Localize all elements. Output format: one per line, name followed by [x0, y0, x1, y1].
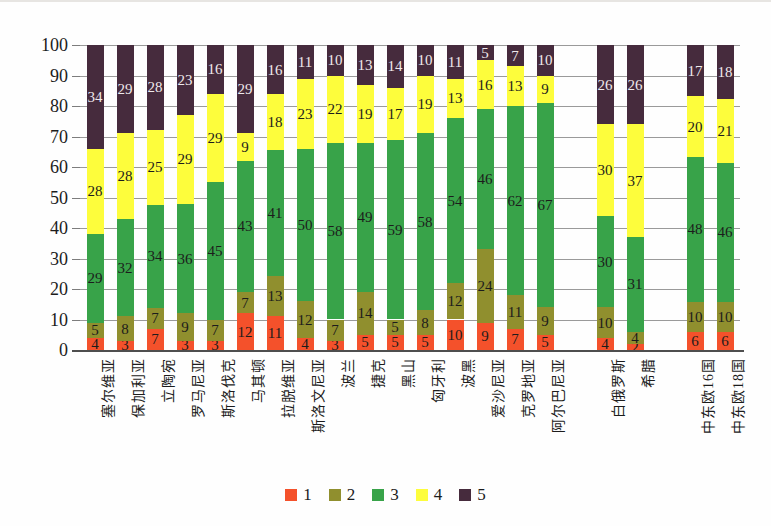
x-axis-line [72, 350, 744, 352]
segment-value-label: 9 [181, 320, 189, 335]
legend-swatch [329, 489, 341, 501]
segment-value-label: 13 [268, 289, 283, 304]
legend-item: 2 [329, 486, 356, 503]
segment-value-label: 48 [688, 222, 703, 237]
segment-value-label: 13 [358, 57, 373, 72]
segment-value-label: 7 [151, 311, 159, 326]
segment-value-label: 26 [598, 77, 613, 92]
segment-value-label: 30 [598, 163, 613, 178]
segment-value-label: 10 [448, 327, 463, 342]
legend-label: 5 [477, 486, 486, 503]
segment-value-label: 54 [448, 193, 463, 208]
category-label: 克罗地亚 [522, 358, 536, 418]
segment-value-label: 8 [121, 321, 129, 336]
segment-value-label: 29 [88, 271, 103, 286]
legend-swatch [285, 489, 297, 501]
segment-value-label: 13 [448, 91, 463, 106]
category-label: 立陶宛 [162, 358, 176, 403]
segment-value-label: 62 [508, 193, 523, 208]
category-label: 斯洛文尼亚 [312, 358, 326, 433]
segment-value-label: 5 [391, 335, 399, 350]
segment-value-label: 25 [148, 160, 163, 175]
y-axis-tick-label: 90 [20, 67, 68, 85]
segment-value-label: 5 [391, 320, 399, 335]
segment-value-label: 9 [481, 329, 489, 344]
segment-value-label: 11 [508, 304, 522, 319]
segment-value-label: 7 [331, 323, 339, 338]
segment-value-label: 4 [631, 330, 639, 345]
category-label: 中东欧16国 [702, 358, 716, 434]
segment-value-label: 9 [541, 82, 549, 97]
segment-value-label: 49 [358, 210, 373, 225]
segment-value-label: 16 [268, 62, 283, 77]
segment-value-label: 6 [691, 333, 699, 348]
category-label: 拉脱维亚 [282, 358, 296, 418]
segment-value-label: 59 [388, 222, 403, 237]
segment-value-label: 17 [388, 106, 403, 121]
segment-value-label: 14 [388, 59, 403, 74]
segment-value-label: 5 [91, 323, 99, 338]
y-axis-tick [72, 45, 80, 46]
y-axis-tick [72, 228, 80, 229]
segment-value-label: 12 [238, 324, 253, 339]
segment-value-label: 10 [328, 53, 343, 68]
segment-value-label: 9 [541, 314, 549, 329]
y-axis-tick-label: 60 [20, 158, 68, 176]
segment-value-label: 10 [718, 309, 733, 324]
segment-value-label: 28 [88, 184, 103, 199]
segment-value-label: 23 [298, 106, 313, 121]
segment-value-label: 10 [688, 309, 703, 324]
y-axis-tick-label: 50 [20, 189, 68, 207]
category-label: 马其顿 [252, 358, 266, 403]
legend-item: 1 [285, 486, 312, 503]
segment-value-label: 50 [298, 217, 313, 232]
segment-value-label: 10 [598, 315, 613, 330]
segment-value-label: 28 [118, 169, 133, 184]
category-label: 罗马尼亚 [192, 358, 206, 418]
segment-value-label: 8 [421, 315, 429, 330]
segment-value-label: 5 [421, 335, 429, 350]
segment-value-label: 43 [238, 219, 253, 234]
legend-swatch [372, 489, 384, 501]
y-axis-tick [72, 137, 80, 138]
segment-value-label: 7 [241, 295, 249, 310]
segment-value-label: 36 [178, 251, 193, 266]
segment-value-label: 34 [88, 89, 103, 104]
segment-value-label: 14 [358, 306, 373, 321]
legend-label: 4 [434, 486, 443, 503]
legend-swatch [416, 489, 428, 501]
segment-value-label: 29 [208, 131, 223, 146]
segment-value-label: 58 [328, 224, 343, 239]
legend-label: 3 [390, 486, 399, 503]
segment-value-label: 67 [538, 198, 553, 213]
category-label: 匈牙利 [432, 358, 446, 403]
segment-value-label: 5 [541, 335, 549, 350]
segment-value-label: 7 [211, 323, 219, 338]
segment-value-label: 11 [268, 326, 282, 341]
segment-value-label: 23 [178, 73, 193, 88]
segment-value-label: 20 [688, 119, 703, 134]
segment-value-label: 32 [118, 260, 133, 275]
segment-value-label: 10 [538, 53, 553, 68]
y-axis-tick-label: 70 [20, 128, 68, 146]
segment-value-label: 30 [598, 254, 613, 269]
y-axis-tick [72, 106, 80, 107]
segment-value-label: 58 [418, 214, 433, 229]
y-axis-tick [72, 289, 80, 290]
y-axis-tick-label: 0 [20, 341, 68, 359]
segment-value-label: 21 [718, 124, 733, 139]
segment-value-label: 22 [328, 102, 343, 117]
segment-value-label: 18 [268, 115, 283, 130]
chart: 0102030405060708090100 45292834383228297… [0, 0, 771, 526]
legend-item: 4 [416, 486, 443, 503]
category-label: 白俄罗斯 [612, 358, 626, 418]
category-label: 波黑 [462, 358, 476, 388]
segment-value-label: 29 [118, 82, 133, 97]
y-axis-tick-label: 20 [20, 280, 68, 298]
y-axis-tick [72, 167, 80, 168]
segment-value-label: 11 [298, 54, 312, 69]
segment-value-label: 17 [688, 63, 703, 78]
segment-value-label: 26 [628, 77, 643, 92]
category-label: 阿尔巴尼亚 [552, 358, 566, 433]
segment-value-label: 16 [208, 62, 223, 77]
